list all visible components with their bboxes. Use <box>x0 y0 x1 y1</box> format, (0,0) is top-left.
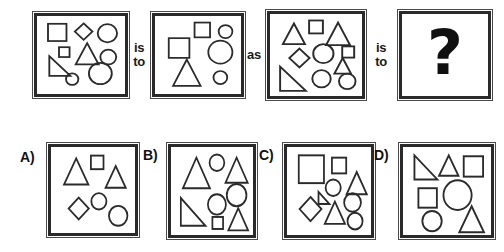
connector-is-to-2: is to <box>370 41 392 69</box>
answer-option-a-label: A) <box>20 150 35 164</box>
circle-shape <box>210 154 225 171</box>
circle-shape <box>109 206 127 226</box>
triangle-shape <box>439 155 458 175</box>
shape-canvas <box>270 14 362 96</box>
shape-canvas <box>403 147 491 235</box>
answer-option-a[interactable] <box>48 144 138 236</box>
panel-c-shapes <box>270 14 362 96</box>
circle-shape <box>326 179 341 196</box>
answer-option-d-label: D) <box>374 148 389 162</box>
option-a-shapes <box>51 147 135 233</box>
circle-shape <box>339 74 356 90</box>
circle-shape <box>313 44 333 63</box>
triangle-shape <box>326 23 350 45</box>
shape-canvas <box>171 147 253 235</box>
circle-shape <box>312 70 330 87</box>
diamond-shape <box>289 49 309 68</box>
panel-b-shapes <box>155 16 241 94</box>
triangle-shape <box>226 158 248 183</box>
triangle-shape <box>283 23 305 44</box>
triangle-shape <box>64 158 88 184</box>
triangle-shape <box>347 172 367 194</box>
triangle-shape <box>459 206 484 232</box>
triangle-shape <box>334 58 351 74</box>
answer-option-b-label: B) <box>143 148 158 162</box>
panel-a-shapes <box>37 16 125 94</box>
answer-option-c[interactable] <box>284 144 374 238</box>
circle-shape <box>443 180 471 210</box>
square-shape <box>91 156 104 170</box>
triangle-shape <box>173 60 201 86</box>
answer-option-b[interactable] <box>168 144 256 238</box>
square-shape <box>59 47 70 57</box>
square-shape <box>418 188 436 207</box>
right-triangle-shape <box>280 67 306 91</box>
shape-canvas <box>155 16 241 94</box>
triangle-shape <box>76 43 99 64</box>
circle-shape <box>208 41 232 64</box>
circle-shape <box>89 63 112 84</box>
square-shape <box>342 46 354 57</box>
square-shape <box>212 217 223 229</box>
circle-shape <box>91 193 106 209</box>
option-c-shapes <box>287 147 371 235</box>
analogy-panel-b <box>152 13 244 97</box>
analogy-answer-panel: ? <box>399 11 491 99</box>
diamond-shape <box>75 23 93 39</box>
square-shape <box>309 20 323 33</box>
square-shape <box>195 23 210 38</box>
triangle-shape <box>228 208 248 230</box>
shape-canvas <box>37 16 125 94</box>
diamond-shape <box>69 198 89 220</box>
circle-shape <box>98 24 117 42</box>
triangle-shape <box>183 158 210 189</box>
square-shape <box>169 38 190 58</box>
connector-is-to-1: is to <box>128 41 150 69</box>
square-shape <box>464 156 483 176</box>
circle-shape <box>227 184 247 206</box>
circle-shape <box>219 25 233 38</box>
circle-shape <box>422 211 441 231</box>
square-shape <box>299 155 324 183</box>
triangle-shape <box>106 166 126 188</box>
connector-as: as <box>243 48 265 62</box>
question-mark: ? <box>402 14 488 96</box>
right-triangle-shape <box>49 56 70 76</box>
option-b-shapes <box>171 147 253 235</box>
circle-shape <box>344 193 361 212</box>
shape-canvas <box>51 147 135 233</box>
answer-option-c-label: C) <box>259 148 274 162</box>
answer-option-d[interactable] <box>400 144 494 238</box>
triangle-shape <box>325 202 345 224</box>
shape-canvas <box>287 147 371 235</box>
right-triangle-shape <box>181 198 206 226</box>
circle-shape <box>208 194 226 214</box>
circle-shape <box>213 71 227 84</box>
square-shape <box>48 24 66 41</box>
option-d-shapes <box>403 147 491 235</box>
square-shape <box>332 158 346 174</box>
right-triangle-shape <box>414 155 437 179</box>
circle-shape <box>347 213 362 230</box>
analogy-panel-a <box>34 13 128 97</box>
analogy-panel-c <box>267 11 365 99</box>
circle-shape <box>66 73 78 84</box>
